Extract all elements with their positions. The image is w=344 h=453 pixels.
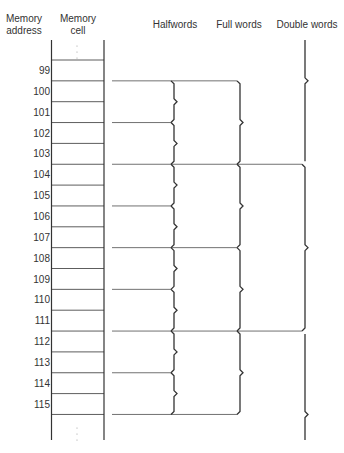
memory-diagram (0, 0, 344, 453)
